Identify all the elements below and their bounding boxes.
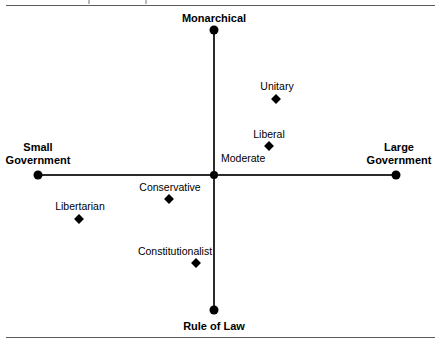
data-point-label-constitutionalist: Constitutionalist (138, 245, 212, 257)
axis-pole-label-right-line1: Large (360, 141, 438, 154)
vertical-axis (213, 30, 215, 310)
crop-artifact-left (88, 0, 90, 4)
data-point-label-moderate: Moderate (221, 152, 265, 164)
axis-origin-dot (210, 171, 218, 179)
crop-artifact-right (145, 0, 147, 4)
data-point-unitary (271, 94, 281, 104)
data-point-constitutionalist (191, 258, 201, 268)
data-point-label-conservative: Conservative (139, 181, 200, 193)
axis-pole-label-bottom: Rule of Law (183, 320, 245, 333)
axis-endcap-right (392, 171, 401, 180)
figure-bottom-rule (6, 337, 435, 338)
axis-pole-label-left-line1: Small (0, 141, 76, 154)
axis-pole-label-top: Monarchical (182, 12, 246, 25)
axis-endcap-top (210, 26, 219, 35)
data-point-libertarian (74, 214, 84, 224)
data-point-label-unitary: Unitary (260, 80, 293, 92)
political-compass-figure: Monarchical Rule of Law Small Government… (0, 0, 441, 346)
axis-pole-label-right: Large Government (360, 141, 438, 167)
axis-pole-label-left: Small Government (0, 141, 76, 167)
data-point-conservative (164, 194, 174, 204)
axis-endcap-bottom (210, 306, 219, 315)
data-point-label-liberal: Liberal (253, 128, 285, 140)
figure-top-rule (6, 5, 435, 6)
data-point-label-libertarian: Libertarian (55, 200, 105, 212)
axis-pole-label-left-line2: Government (0, 154, 76, 167)
axis-endcap-left (34, 171, 43, 180)
axis-pole-label-right-line2: Government (360, 154, 438, 167)
data-point-liberal (264, 141, 274, 151)
